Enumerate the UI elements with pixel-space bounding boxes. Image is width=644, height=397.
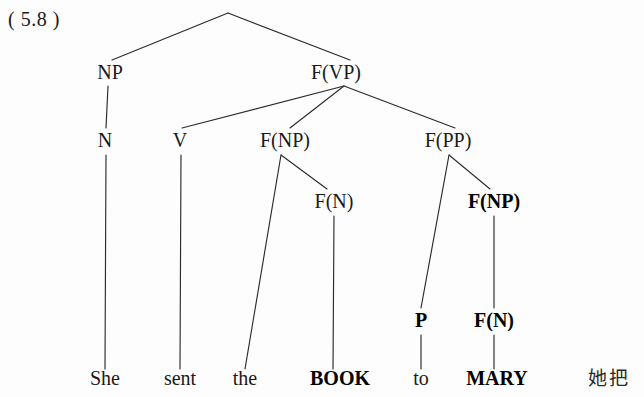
tree-node-label: NP xyxy=(97,61,123,83)
tree-edges-group xyxy=(105,13,494,369)
tree-edge xyxy=(344,86,455,128)
tree-edge xyxy=(333,216,334,369)
tree-leaf-label: sent xyxy=(164,367,197,389)
tree-nodes-group: NPF(VP)NVF(NP)F(PP)F(N)F(NP)PF(N) xyxy=(97,61,520,332)
tree-leaf-label: She xyxy=(90,367,120,389)
chinese-gloss-text: 她把 xyxy=(588,363,630,390)
tree-edge xyxy=(228,13,350,60)
tree-node-label: F(PP) xyxy=(425,129,472,152)
tree-node-label: F(VP) xyxy=(311,61,361,84)
tree-node-label: V xyxy=(173,129,188,151)
tree-edge xyxy=(449,155,490,189)
tree-edge xyxy=(421,155,449,308)
tree-leaf-label: BOOK xyxy=(310,367,370,389)
tree-edge xyxy=(105,155,106,369)
tree-edge xyxy=(180,155,181,369)
syntax-tree-diagram: NPF(VP)NVF(NP)F(PP)F(N)F(NP)PF(N) Shesen… xyxy=(0,0,644,397)
tree-edge xyxy=(112,13,228,60)
tree-edge xyxy=(182,86,344,128)
tree-leaf-label: MARY xyxy=(466,367,528,389)
tree-edge xyxy=(290,86,344,128)
syntax-tree-figure: ( 5.8 ) NPF(VP)NVF(NP)F(PP)F(N)F(NP)PF(N… xyxy=(0,0,644,397)
tree-node-label: F(NP) xyxy=(260,129,310,152)
tree-leaf-label: the xyxy=(233,367,258,389)
tree-node-label: N xyxy=(98,129,112,151)
tree-leaf-label: to xyxy=(413,367,429,389)
tree-edge xyxy=(281,155,327,189)
tree-leaves-group: ShesenttheBOOKtoMARY xyxy=(90,367,528,389)
tree-node-label: F(N) xyxy=(315,190,354,213)
tree-node-label: F(N) xyxy=(474,309,514,332)
tree-node-label: F(NP) xyxy=(468,190,520,213)
tree-node-label: P xyxy=(415,309,427,331)
tree-edge xyxy=(106,86,108,128)
tree-edge xyxy=(245,155,281,369)
